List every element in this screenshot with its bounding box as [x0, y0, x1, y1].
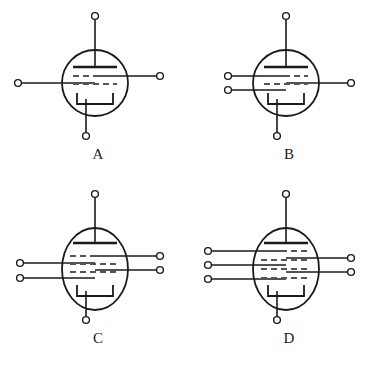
panel-label-c: C	[86, 330, 110, 347]
terminal-right-1-c	[157, 253, 164, 260]
terminal-left-2-d	[205, 262, 212, 269]
terminal-top-c	[92, 191, 99, 198]
panel-label-a: A	[86, 146, 110, 163]
terminal-left-1-d	[205, 248, 212, 255]
terminal-bottom-d	[274, 317, 281, 324]
terminal-left-1-c	[17, 260, 24, 267]
terminal-left-3-d	[205, 276, 212, 283]
panel-label-b: B	[277, 146, 301, 163]
terminal-right-2-d	[348, 269, 355, 276]
terminal-top-b	[283, 13, 290, 20]
terminal-right-1-a	[157, 73, 164, 80]
terminal-left-1-a	[15, 80, 22, 87]
terminal-right-2-c	[157, 267, 164, 274]
terminal-bottom-a	[83, 133, 90, 140]
terminal-left-2-b	[225, 87, 232, 94]
terminal-bottom-b	[274, 133, 281, 140]
panel-label-d: D	[277, 330, 301, 347]
terminal-right-1-d	[348, 255, 355, 262]
terminal-left-1-b	[225, 73, 232, 80]
terminal-right-1-b	[348, 80, 355, 87]
figure-background	[0, 0, 382, 369]
terminal-top-a	[92, 13, 99, 20]
vacuum-tube-figure	[0, 0, 382, 369]
terminal-bottom-c	[83, 317, 90, 324]
terminal-left-2-c	[17, 275, 24, 282]
terminal-top-d	[283, 191, 290, 198]
